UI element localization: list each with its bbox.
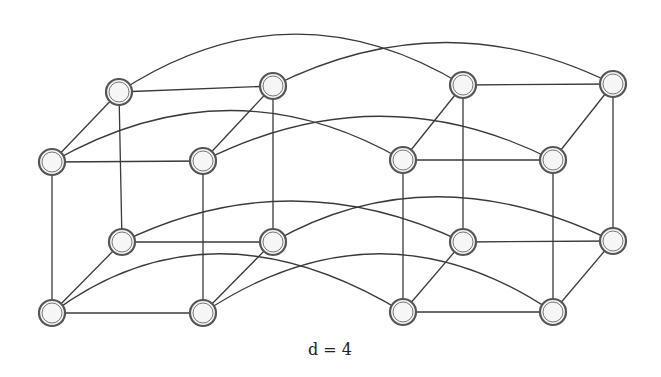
node-M bbox=[450, 229, 476, 255]
node-inner-ring bbox=[453, 232, 473, 252]
node-N bbox=[600, 228, 626, 254]
edge-A-B bbox=[119, 86, 273, 92]
node-J bbox=[260, 229, 286, 255]
node-B bbox=[260, 73, 286, 99]
node-E bbox=[450, 72, 476, 98]
nodes-layer bbox=[39, 71, 626, 326]
edge-C-D bbox=[52, 161, 203, 162]
edge-F-H bbox=[553, 84, 613, 160]
edge-M-N bbox=[463, 241, 613, 242]
curved-edge-D-H bbox=[203, 116, 553, 161]
edge-J-L bbox=[203, 242, 273, 313]
edge-E-F bbox=[463, 84, 613, 85]
node-inner-ring bbox=[193, 303, 213, 323]
node-K bbox=[39, 300, 65, 326]
node-inner-ring bbox=[543, 150, 563, 170]
curved-edge-C-G bbox=[52, 110, 403, 162]
node-F bbox=[600, 71, 626, 97]
node-inner-ring bbox=[263, 232, 283, 252]
curved-edge-I-M bbox=[122, 201, 463, 242]
node-inner-ring bbox=[603, 231, 623, 251]
node-H bbox=[540, 147, 566, 173]
node-I bbox=[109, 229, 135, 255]
node-inner-ring bbox=[263, 76, 283, 96]
node-inner-ring bbox=[109, 82, 129, 102]
edge-A-C bbox=[52, 92, 119, 162]
node-D bbox=[190, 148, 216, 174]
curved-edge-K-O bbox=[52, 254, 403, 313]
node-inner-ring bbox=[393, 150, 413, 170]
node-P bbox=[540, 299, 566, 325]
edge-E-G bbox=[403, 85, 463, 160]
node-inner-ring bbox=[453, 75, 473, 95]
graph-canvas bbox=[0, 0, 661, 377]
edges-layer bbox=[52, 34, 613, 313]
curved-edge-J-N bbox=[273, 197, 613, 242]
node-inner-ring bbox=[193, 151, 213, 171]
node-inner-ring bbox=[42, 152, 62, 172]
node-L bbox=[190, 300, 216, 326]
node-C bbox=[39, 149, 65, 175]
edge-B-D bbox=[203, 86, 273, 161]
node-inner-ring bbox=[393, 302, 413, 322]
node-inner-ring bbox=[112, 232, 132, 252]
hypercube-diagram: d = 4 bbox=[0, 0, 661, 377]
node-O bbox=[390, 299, 416, 325]
node-inner-ring bbox=[543, 302, 563, 322]
node-G bbox=[390, 147, 416, 173]
curved-edge-B-F bbox=[273, 42, 613, 86]
node-inner-ring bbox=[603, 74, 623, 94]
curved-edge-L-P bbox=[203, 254, 553, 313]
dimension-caption: d = 4 bbox=[300, 340, 360, 359]
edge-A-I bbox=[119, 92, 122, 242]
node-A bbox=[106, 79, 132, 105]
curved-edge-A-E bbox=[119, 34, 463, 92]
node-inner-ring bbox=[42, 303, 62, 323]
